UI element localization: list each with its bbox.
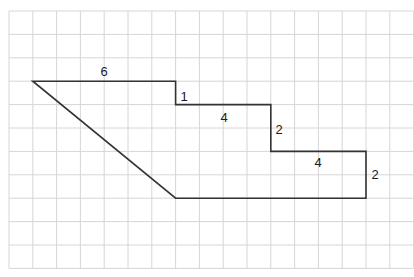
grid-lines — [9, 11, 414, 268]
label-top-edge: 6 — [100, 64, 107, 79]
label-step-2: 2 — [275, 122, 282, 137]
label-right-edge: 2 — [371, 167, 378, 182]
grid-diagram: 6 1 4 2 4 2 — [0, 0, 414, 277]
label-horizontal-3: 4 — [314, 155, 321, 170]
label-horizontal-2: 4 — [220, 110, 227, 125]
label-step-1: 1 — [180, 89, 187, 104]
